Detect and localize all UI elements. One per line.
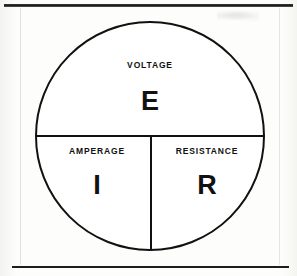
voltage-symbol: E bbox=[80, 88, 220, 115]
voltage-label: VOLTAGE bbox=[80, 60, 220, 70]
resistance-symbol: R bbox=[148, 172, 266, 199]
amperage-symbol: I bbox=[38, 172, 156, 199]
resistance-label: RESISTANCE bbox=[148, 146, 266, 156]
ohms-law-diagram-page: VOLTAGE E AMPERAGE I RESISTANCE R bbox=[0, 0, 297, 276]
ohms-law-circle: VOLTAGE E AMPERAGE I RESISTANCE R bbox=[0, 0, 297, 276]
amperage-label: AMPERAGE bbox=[38, 146, 156, 156]
circle-diagram-svg bbox=[0, 0, 297, 276]
